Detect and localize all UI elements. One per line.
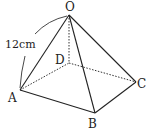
label-b: B bbox=[88, 117, 97, 130]
label-a: A bbox=[7, 91, 17, 105]
edge-ab bbox=[20, 90, 95, 113]
label-d: D bbox=[55, 53, 65, 67]
measurement-label: 12cm bbox=[5, 38, 36, 51]
label-o: O bbox=[65, 0, 75, 14]
edge-bc bbox=[95, 82, 136, 113]
pyramid-diagram: O A B C D 12cm bbox=[0, 0, 153, 130]
edge-ad bbox=[20, 63, 69, 90]
label-c: C bbox=[137, 77, 146, 91]
edge-oc bbox=[69, 15, 136, 82]
